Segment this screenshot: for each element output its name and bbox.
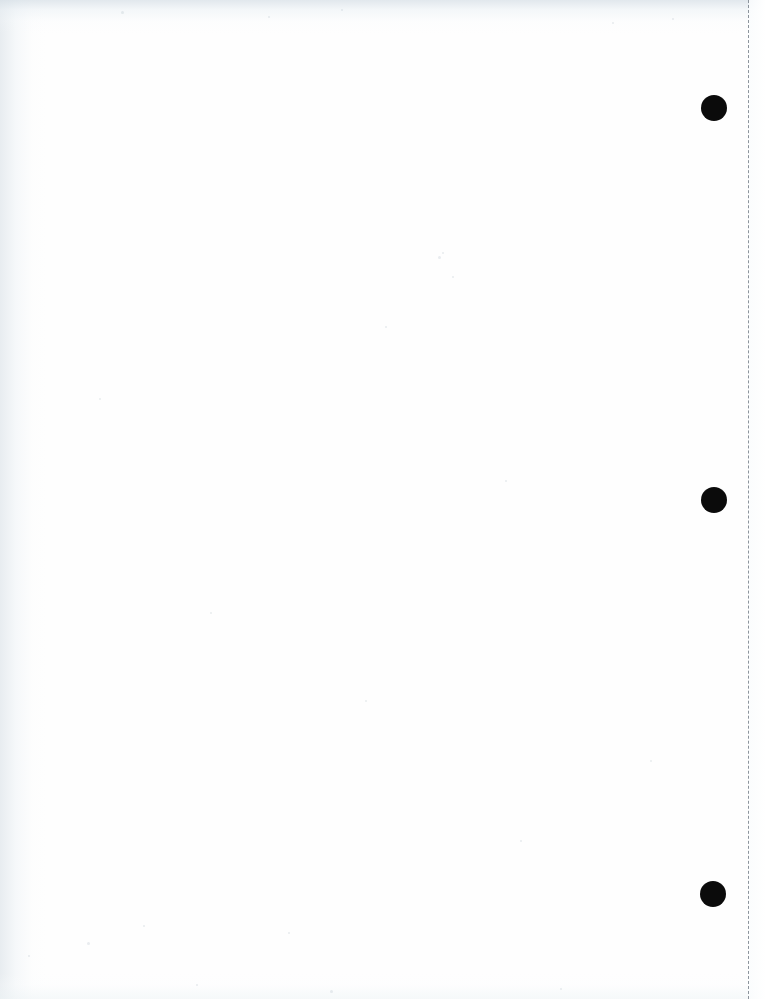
punch-mark-top [701,95,727,121]
punch-mark-middle [701,487,727,513]
paper-surface [0,0,766,999]
scanned-page [0,0,766,999]
punch-mark-bottom [700,881,726,907]
